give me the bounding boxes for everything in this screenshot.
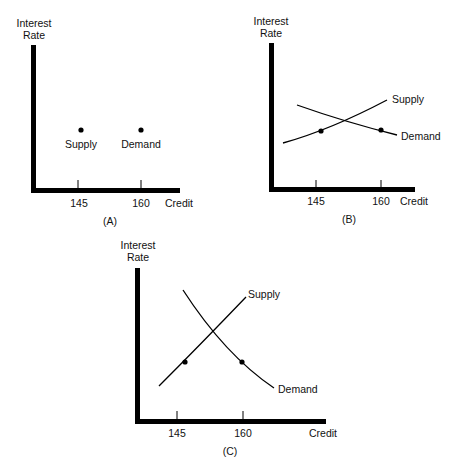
demand-point [138, 127, 143, 132]
demand-point [239, 359, 244, 364]
tick-label-145: 145 [168, 427, 186, 439]
panel-label-b: (B) [342, 213, 356, 225]
tick-label-160: 160 [132, 197, 150, 209]
supply-point [182, 359, 187, 364]
demand-label: Demand [401, 130, 441, 142]
panel-c: Interest Rate 145 160 Credit Supply Dema… [120, 239, 337, 457]
x-axis [269, 187, 415, 192]
supply-demand-diagrams: Interest Rate 145 160 Credit Supply Dema… [0, 0, 459, 475]
y-axis [31, 45, 36, 193]
tick-label-160: 160 [372, 195, 390, 207]
y-axis-label-line2: Rate [23, 29, 45, 41]
tick-label-145: 145 [307, 195, 325, 207]
supply-label: Supply [248, 288, 281, 300]
x-axis [31, 188, 180, 193]
demand-point [378, 127, 383, 132]
y-axis-label-line2: Rate [127, 251, 149, 263]
demand-label: Demand [278, 383, 318, 395]
y-axis-label-line1: Interest [16, 17, 51, 29]
x-axis-label: Credit [165, 197, 193, 209]
supply-point [78, 127, 83, 132]
tick-label-160: 160 [234, 427, 252, 439]
panel-label-a: (A) [103, 215, 117, 227]
supply-label: Supply [392, 93, 425, 105]
y-axis [269, 43, 274, 191]
y-axis-label-line2: Rate [260, 27, 282, 39]
x-axis-label: Credit [400, 195, 428, 207]
x-axis [135, 419, 326, 424]
supply-label: Supply [65, 138, 98, 150]
tick-label-145: 145 [70, 197, 88, 209]
demand-curve [183, 290, 274, 388]
panel-b: Interest Rate 145 160 Credit Supply Dema… [253, 15, 440, 225]
demand-label: Demand [121, 138, 161, 150]
supply-curve [159, 297, 246, 386]
supply-curve [283, 100, 387, 143]
supply-point [318, 128, 323, 133]
panel-a: Interest Rate 145 160 Credit Supply Dema… [16, 17, 193, 227]
y-axis [135, 268, 140, 424]
y-axis-label-line1: Interest [253, 15, 288, 27]
y-axis-label-line1: Interest [120, 239, 155, 251]
panel-label-c: (C) [223, 445, 238, 457]
x-axis-label: Credit [309, 427, 337, 439]
